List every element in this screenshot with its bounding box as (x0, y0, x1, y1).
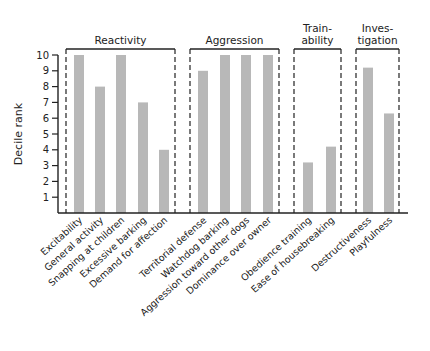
bar (384, 113, 394, 213)
bar (95, 87, 105, 213)
group-label: Train- (302, 22, 332, 34)
group-label: Aggression (206, 34, 264, 46)
bar (326, 147, 336, 213)
group-label: tigation (357, 34, 397, 46)
y-tick-label: 5 (43, 129, 49, 140)
y-tick-label: 10 (36, 50, 49, 61)
y-tick-label: 8 (43, 81, 49, 92)
y-axis-label: Decile rank (12, 102, 25, 165)
y-tick-label: 2 (43, 176, 49, 187)
group-label: Reactivity (95, 34, 147, 46)
bar (263, 55, 273, 213)
group-label: ability (301, 34, 333, 46)
bar-chart: ReactivityAggressionTrain-abilityInves-t… (0, 0, 430, 351)
y-tick-label: 1 (43, 192, 49, 203)
bar (159, 150, 169, 213)
y-tick-label: 6 (43, 113, 49, 124)
bar (116, 55, 126, 213)
bar (198, 71, 208, 213)
bar (303, 162, 313, 213)
group-label: Inves- (362, 22, 394, 34)
bar (220, 55, 230, 213)
bar (74, 55, 84, 213)
bar (241, 55, 251, 213)
y-tick-label: 9 (43, 65, 49, 76)
y-tick-label: 3 (43, 160, 49, 171)
y-tick-label: 4 (43, 144, 49, 155)
bar (363, 68, 373, 213)
bar (138, 102, 148, 213)
y-tick-label: 7 (43, 97, 49, 108)
